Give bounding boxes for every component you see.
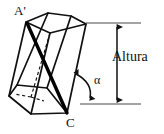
angle-arc-alpha [76,74,90,98]
top-face-outline [26,13,86,33]
angle-marker-group [76,74,90,98]
lateral-edges-group [9,13,86,114]
lateral-edge-front-right [67,24,86,113]
diagonal-A-prime-to-C [27,23,67,113]
lateral-edge-back-left [17,13,48,85]
label-c: C [66,115,75,130]
hidden-base-edge-left [14,94,31,97]
label-a-prime: A' [14,3,26,18]
prism-diagram-svg: A' C Altura α [0,0,164,134]
geometry-figure: A' C Altura α [0,0,164,134]
diagonal-group [27,23,67,113]
hidden-edges-group [14,33,50,101]
label-altura: Altura [112,49,149,64]
hidden-base-edge-right [31,97,44,101]
top-pentagon-group [26,13,86,33]
label-alpha: α [94,73,101,87]
